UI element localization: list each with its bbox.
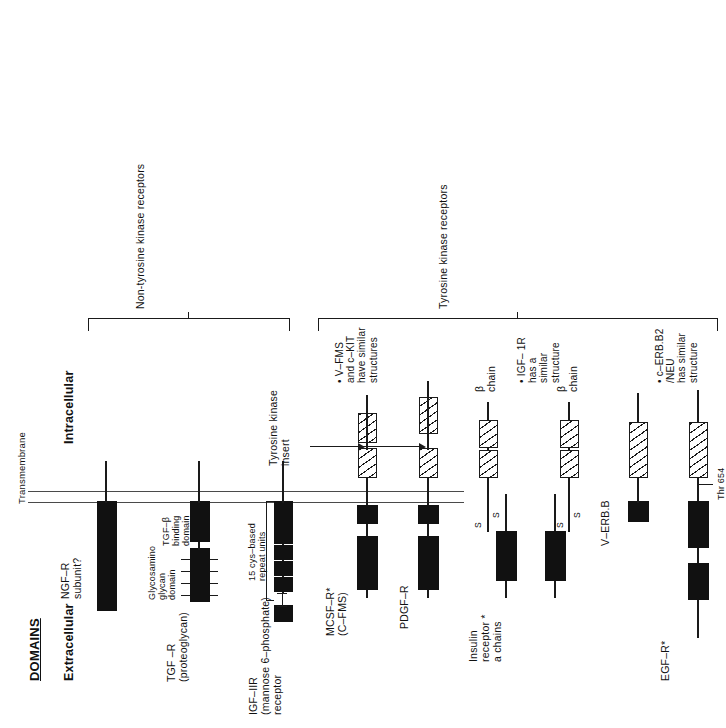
igf-iir-repeat-unit xyxy=(274,577,293,592)
footnote-c-erb-b2: • c–ERB.B2 /NEU has similar structure xyxy=(654,329,699,383)
bracket-non-tk-nub xyxy=(188,312,189,319)
igf-iir-repeat-unit xyxy=(274,501,293,519)
igf-iir-spacer-end-left xyxy=(277,606,287,607)
pdgf-r-juxtamembrane-domain xyxy=(418,505,439,524)
thr-654-tick xyxy=(697,484,713,485)
insulin-disulfide-s-b1: S xyxy=(556,522,566,528)
insulin-beta-chain-b-kinase-1 xyxy=(560,450,579,478)
tgf-r-domain-label-glycosaminoglycan: Glycosamino glycan domain xyxy=(147,546,177,600)
v-erb-b-extracellular-domain xyxy=(628,501,649,522)
insulin-beta-chain-a-label: β chain xyxy=(474,366,498,392)
mcsf-r-extracellular-domain xyxy=(357,536,378,590)
tgf-r-backbone xyxy=(198,461,200,503)
tgf-r-domain-label-tgfb-binding: TGF–β binding domain xyxy=(161,515,191,546)
receptor-label-mcsf-r: MCSF–R* (C–FMS) xyxy=(325,587,349,636)
mcsf-r-juxtamembrane-domain xyxy=(357,505,378,524)
egf-r-kinase-domain xyxy=(689,422,708,478)
v-erb-b-kinase-domain xyxy=(629,422,648,478)
igf-iir-repeat-unit xyxy=(274,517,293,532)
igf-iir-domain-label-repeat-units: 15 cys–based repeat units xyxy=(247,523,267,581)
region-label-transmembrane: Transmembrane xyxy=(17,432,28,504)
pdgf-r-backbone-c xyxy=(427,381,429,450)
bracket-label-non-tyrosine-kinase-receptors: Non-tyrosine kinase receptors xyxy=(135,164,147,309)
bracket-tk-nub xyxy=(517,312,518,319)
tk-insert-arrowhead-pdgf xyxy=(419,443,426,451)
annotation-tyrosine-kinase-insert: Tyrosine kinase insert xyxy=(268,390,292,466)
membrane-line-outer xyxy=(28,502,464,503)
bracket-non-tyrosine-kinase-receptors xyxy=(88,318,290,331)
insulin-beta-chain-a-kinase-2 xyxy=(479,420,498,448)
tgf-r-linker xyxy=(198,542,200,550)
mcsf-r-kinase-domain-1 xyxy=(358,448,377,478)
egf-r-extracellular-domain-2 xyxy=(688,501,709,548)
igf-iir-repeat-unit xyxy=(274,545,293,560)
receptor-label-egf-r: EGF–R* xyxy=(660,641,672,681)
igf-iir-repeat-bracket xyxy=(266,501,274,601)
bracket-label-tyrosine-kinase-receptors: Tyrosine kinase receptors xyxy=(438,184,450,309)
receptor-label-ngf-r: NGF–R subunit? xyxy=(60,558,84,599)
receptor-label-pdgf-r: PDGF–R xyxy=(399,585,411,629)
annotation-thr-654: Thr 654 xyxy=(716,468,726,500)
tgf-r-glycosaminoglycan-domain xyxy=(190,548,210,602)
figure-title: DOMAINS xyxy=(28,618,43,681)
membrane-line-inner xyxy=(28,491,464,492)
pdgf-r-kinase-domain-1 xyxy=(419,448,438,478)
igf-iir-repeat-unit xyxy=(274,561,293,576)
insulin-beta-chain-b-kinase-2 xyxy=(560,420,579,448)
region-label-intracellular: Intracellular xyxy=(62,371,76,444)
receptor-label-v-erb-b: V–ERB.B xyxy=(600,500,612,546)
insulin-disulfide-s-b2: S xyxy=(573,512,583,518)
egf-r-extracellular-domain-1 xyxy=(688,563,709,600)
igf-iir-repeat-unit xyxy=(274,605,293,622)
insulin-beta-chain-a-kinase-1 xyxy=(479,450,498,478)
footnote-v-fms: • V–FMS and c–KIT have similar structure… xyxy=(334,327,379,383)
region-label-extracellular: Extracellular xyxy=(62,603,76,681)
pdgf-r-extracellular-domain xyxy=(418,536,439,590)
insulin-alpha-chain-a-domain xyxy=(496,531,517,581)
tk-insert-leader-line xyxy=(310,446,420,447)
tgf-r-tgfb-binding-domain xyxy=(190,501,210,542)
receptor-label-tgf-r: TGF –R (proteoglycan) xyxy=(166,612,190,682)
mcsf-r-backbone-c xyxy=(366,395,368,450)
ngf-r-extracellular-domain xyxy=(97,501,117,611)
footnote-igf-1r: • IGF– 1R has a similar structure xyxy=(516,337,561,383)
receptor-label-insulin-receptor: Insulin receptor * a chains xyxy=(468,614,503,662)
ngf-r-backbone xyxy=(105,461,107,503)
igf-iir-backbone-intracellular xyxy=(282,461,284,503)
insulin-alpha-chain-b-domain xyxy=(545,531,566,581)
insulin-disulfide-s-a2: S xyxy=(492,512,502,518)
insulin-disulfide-s-a1: S xyxy=(474,522,484,528)
tk-insert-arrowhead-mcsf xyxy=(358,443,365,451)
